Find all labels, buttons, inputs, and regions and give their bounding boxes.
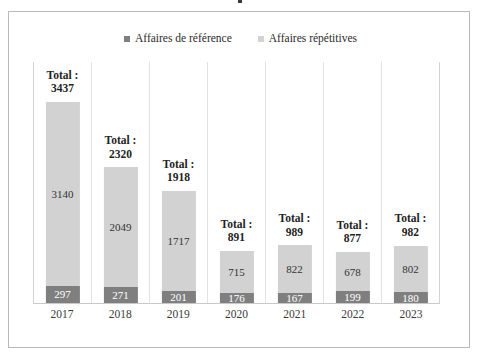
bar-group-container: Total :34373140297Total :23202049271Tota… bbox=[34, 62, 439, 303]
plot-area: Total :34373140297Total :23202049271Tota… bbox=[33, 62, 440, 304]
x-tick-2017: 2017 bbox=[33, 308, 91, 320]
legend-entry-affaires-de-reference: Affaires de référence bbox=[124, 33, 232, 45]
bar-segment-affaires-de-reference-2020[interactable]: 176 bbox=[219, 293, 253, 303]
total-label-2019: Total :1918 bbox=[163, 158, 195, 185]
total-value: 982 bbox=[395, 226, 427, 240]
total-value: 877 bbox=[337, 232, 369, 246]
total-label-2022: Total :877 bbox=[337, 219, 369, 246]
stacked-bar-2017[interactable]: 3140297 bbox=[45, 102, 79, 303]
bar-segment-value: 2049 bbox=[110, 221, 132, 233]
total-label-2020: Total :891 bbox=[221, 218, 253, 245]
total-prefix: Total : bbox=[279, 212, 311, 226]
x-tick-2022: 2022 bbox=[324, 308, 382, 320]
stacked-bar-2019[interactable]: 1717201 bbox=[161, 191, 195, 303]
bar-segment-affaires-repetitives-2019[interactable]: 1717 bbox=[161, 191, 195, 291]
bar-segment-value: 678 bbox=[344, 266, 361, 278]
x-tick-2023: 2023 bbox=[382, 308, 440, 320]
stacked-bar-2021[interactable]: 822167 bbox=[277, 245, 311, 303]
total-value: 891 bbox=[221, 231, 253, 245]
total-prefix: Total : bbox=[105, 134, 137, 148]
bar-segment-affaires-de-reference-2019[interactable]: 201 bbox=[161, 291, 195, 303]
total-prefix: Total : bbox=[337, 219, 369, 233]
bar-group-2017: Total :34373140297 bbox=[34, 62, 92, 303]
bar-group-2019: Total :19181717201 bbox=[150, 62, 208, 303]
x-tick-2020: 2020 bbox=[207, 308, 265, 320]
legend-entry-affaires-repetitives: Affaires répétitives bbox=[258, 33, 357, 45]
bar-segment-affaires-de-reference-2023[interactable]: 180 bbox=[393, 292, 427, 303]
bar-segment-value: 201 bbox=[170, 291, 187, 303]
bar-segment-value: 199 bbox=[344, 291, 361, 303]
square-marker-icon bbox=[258, 36, 264, 42]
stacked-bar-2020[interactable]: 715176 bbox=[219, 251, 253, 303]
stacked-bar-2022[interactable]: 678199 bbox=[335, 252, 369, 303]
total-value: 3437 bbox=[47, 82, 79, 96]
bar-group-2020: Total :891715176 bbox=[208, 62, 266, 303]
bar-segment-value: 1717 bbox=[168, 235, 190, 247]
bar-segment-value: 3140 bbox=[52, 188, 74, 200]
total-value: 989 bbox=[279, 226, 311, 240]
bar-segment-affaires-repetitives-2018[interactable]: 2049 bbox=[103, 167, 137, 287]
bar-segment-value: 802 bbox=[402, 263, 419, 275]
stacked-bar-2023[interactable]: 802180 bbox=[393, 246, 427, 303]
bar-segment-value: 297 bbox=[54, 288, 71, 300]
total-prefix: Total : bbox=[47, 69, 79, 83]
total-label-2017: Total :3437 bbox=[47, 69, 79, 96]
total-label-2021: Total :989 bbox=[279, 212, 311, 239]
bar-segment-affaires-repetitives-2020[interactable]: 715 bbox=[219, 251, 253, 293]
x-tick-2021: 2021 bbox=[266, 308, 324, 320]
bar-segment-value: 822 bbox=[286, 263, 303, 275]
bar-segment-affaires-de-reference-2018[interactable]: 271 bbox=[103, 287, 137, 303]
bar-segment-affaires-repetitives-2022[interactable]: 678 bbox=[335, 252, 369, 292]
bar-group-2023: Total :982802180 bbox=[382, 62, 439, 303]
legend-label: Affaires de référence bbox=[135, 33, 232, 45]
total-prefix: Total : bbox=[395, 212, 427, 226]
bar-segment-affaires-repetitives-2021[interactable]: 822 bbox=[277, 245, 311, 293]
bar-segment-affaires-de-reference-2017[interactable]: 297 bbox=[45, 286, 79, 303]
x-axis-tick-labels: 2017201820192020202120222023 bbox=[33, 308, 440, 320]
bar-group-2018: Total :23202049271 bbox=[92, 62, 150, 303]
bar-segment-value: 715 bbox=[228, 266, 245, 278]
total-value: 2320 bbox=[105, 148, 137, 162]
bar-segment-value: 176 bbox=[228, 293, 245, 303]
bar-segment-value: 167 bbox=[286, 293, 303, 303]
bar-segment-affaires-de-reference-2021[interactable]: 167 bbox=[277, 293, 311, 303]
total-prefix: Total : bbox=[163, 158, 195, 172]
total-label-2018: Total :2320 bbox=[105, 134, 137, 161]
clipped-title-fragment bbox=[238, 0, 242, 3]
square-marker-icon bbox=[124, 36, 130, 42]
bar-segment-affaires-repetitives-2023[interactable]: 802 bbox=[393, 246, 427, 293]
bar-segment-value: 180 bbox=[402, 292, 419, 303]
total-value: 1918 bbox=[163, 171, 195, 185]
total-label-2023: Total :982 bbox=[395, 212, 427, 239]
chart-legend: Affaires de référence Affaires répétitiv… bbox=[0, 33, 481, 45]
bar-segment-affaires-de-reference-2022[interactable]: 199 bbox=[335, 291, 369, 303]
bar-group-2022: Total :877678199 bbox=[324, 62, 382, 303]
x-tick-2019: 2019 bbox=[149, 308, 207, 320]
legend-label: Affaires répétitives bbox=[269, 33, 357, 45]
bar-segment-affaires-repetitives-2017[interactable]: 3140 bbox=[45, 102, 79, 286]
total-prefix: Total : bbox=[221, 218, 253, 232]
bar-group-2021: Total :989822167 bbox=[266, 62, 324, 303]
x-tick-2018: 2018 bbox=[91, 308, 149, 320]
bar-segment-value: 271 bbox=[112, 289, 129, 301]
stacked-bar-2018[interactable]: 2049271 bbox=[103, 167, 137, 303]
